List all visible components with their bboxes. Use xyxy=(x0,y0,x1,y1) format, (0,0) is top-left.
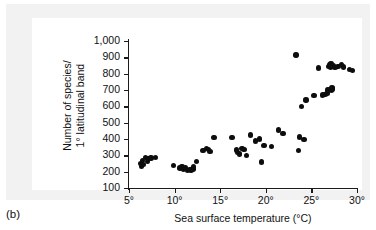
y-axis-label-text: Number of species/ 1° latitudinal band xyxy=(60,61,85,151)
scatter-point xyxy=(311,93,316,98)
scatter-point xyxy=(280,131,285,136)
x-axis-tick-label: 30° xyxy=(349,194,365,207)
y-axis-tick-label: 500 xyxy=(102,116,120,129)
x-axis-tick-label: 5° xyxy=(124,194,134,207)
scatter-point xyxy=(244,153,249,158)
panel-caption: (b) xyxy=(6,208,20,220)
y-axis-tick: 300 xyxy=(124,155,129,156)
y-axis-label: Number of species/ 1° latitudinal band xyxy=(60,42,86,170)
x-axis-tick-label: 10° xyxy=(167,194,183,207)
x-axis-tick xyxy=(129,188,130,193)
scatter-point xyxy=(237,151,242,156)
y-axis-tick-label: 800 xyxy=(102,67,120,80)
y-axis-tick: 200 xyxy=(124,172,129,173)
scatter-point xyxy=(350,68,355,73)
x-axis-tick xyxy=(175,188,176,193)
scatter-point xyxy=(296,148,301,153)
scatter-point xyxy=(194,159,199,164)
x-axis-tick xyxy=(266,188,267,193)
scatter-point xyxy=(341,64,346,69)
scatter-point xyxy=(303,97,308,102)
y-axis-tick-label: 200 xyxy=(102,165,120,178)
y-axis-label-line1: Number of species/ xyxy=(60,61,72,151)
y-axis-tick: 700 xyxy=(124,90,129,91)
scatter-point xyxy=(293,52,298,57)
y-axis-tick-label: 1,000 xyxy=(94,34,120,47)
y-axis-tick: 900 xyxy=(124,57,129,58)
x-axis-tick xyxy=(311,188,312,193)
x-axis-line xyxy=(128,188,358,189)
y-axis-tick: 800 xyxy=(124,74,129,75)
y-axis-tick: 600 xyxy=(124,106,129,107)
y-axis-tick-label: 300 xyxy=(102,148,120,161)
figure-root: Number of species/ 1° latitudinal band 1… xyxy=(0,0,376,230)
y-axis-tick: 1,000 xyxy=(124,41,129,42)
scatter-point xyxy=(299,104,304,109)
x-axis-tick-label: 15° xyxy=(212,194,228,207)
y-axis-tick-label: 600 xyxy=(102,99,120,112)
scatter-point xyxy=(269,144,274,149)
y-axis-tick: 500 xyxy=(124,123,129,124)
y-axis-tick-label: 700 xyxy=(102,83,120,96)
x-axis-tick xyxy=(357,188,358,193)
y-axis-label-line2: 1° latitudinal band xyxy=(73,64,85,148)
scatter-point xyxy=(259,159,264,164)
figure-panel: Number of species/ 1° latitudinal band 1… xyxy=(6,4,370,200)
scatter-point xyxy=(171,163,176,168)
scatter-point xyxy=(261,143,266,148)
scatter-point xyxy=(211,135,216,140)
scatter-point xyxy=(241,147,246,152)
y-axis-tick-label: 900 xyxy=(102,50,120,63)
scatter-point xyxy=(153,155,158,160)
plot-area: 1002003004005006007008009001,0005°10°15°… xyxy=(129,41,357,188)
scatter-point xyxy=(301,137,306,142)
y-axis-tick-label: 400 xyxy=(102,132,120,145)
y-axis-tick: 400 xyxy=(124,139,129,140)
x-axis-tick xyxy=(220,188,221,193)
scatter-point xyxy=(248,132,253,137)
scatter-point xyxy=(257,136,262,141)
scatter-point xyxy=(330,86,335,91)
scatter-point xyxy=(229,135,234,140)
scatter-point xyxy=(316,65,321,70)
x-axis-tick-label: 25° xyxy=(303,194,319,207)
plot-card: Number of species/ 1° latitudinal band 1… xyxy=(32,18,362,190)
x-axis-label: Sea surface temperature (°C) xyxy=(129,212,357,224)
scatter-point xyxy=(191,164,196,169)
x-axis-tick-label: 20° xyxy=(258,194,274,207)
y-axis-tick-label: 100 xyxy=(102,181,120,194)
scatter-point xyxy=(207,149,212,154)
